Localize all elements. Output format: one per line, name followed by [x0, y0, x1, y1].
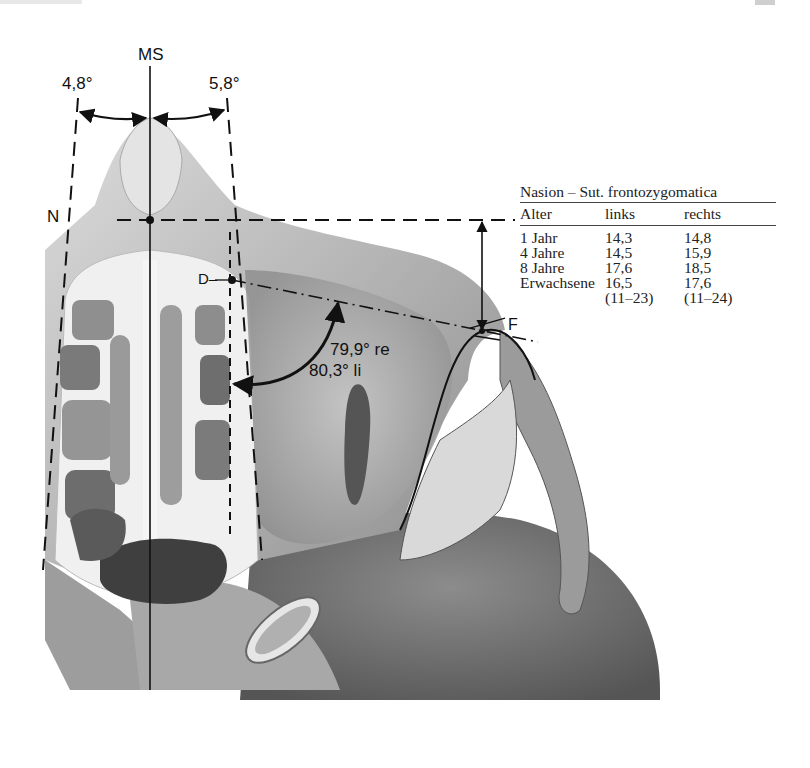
cell-age: 1 Jahr [520, 230, 605, 245]
label-angle-left-side: 80,3° li [309, 361, 361, 381]
table-row: 8 Jahre 17,6 18,5 [520, 260, 776, 275]
nasion-point [146, 216, 154, 224]
label-point-n: N [47, 207, 59, 227]
cell-right: 15,9 [684, 245, 774, 260]
cell-age: 4 Jahre [520, 245, 605, 260]
angle-arrow-left [80, 112, 146, 119]
angle-arrow-right [154, 110, 224, 119]
cell-right: 17,6 [684, 275, 774, 290]
table-title: Nasion – Sut. frontozygomatica [520, 184, 776, 203]
label-point-f: F [508, 316, 518, 334]
label-angle-left: 4,8° [62, 74, 92, 94]
label-midsagittal: MS [138, 45, 164, 65]
point-f [479, 328, 485, 334]
cell-age: 8 Jahre [520, 260, 605, 275]
cell-left: 17,6 [605, 260, 684, 275]
cell-left: 14,5 [605, 245, 684, 260]
cell-left: 16,5 [605, 275, 684, 290]
label-angle-right-side: 79,9° re [330, 340, 390, 360]
column-header-age: Alter [520, 206, 605, 221]
cell-left: 14,3 [605, 230, 684, 245]
label-angle-right: 5,8° [209, 74, 239, 94]
measurement-table: Nasion – Sut. frontozygomatica Alter lin… [520, 184, 776, 305]
cell-right: 14,8 [684, 230, 774, 245]
label-point-d: D– [198, 270, 217, 287]
table-row: Erwachsene 16,5 17,6 [520, 275, 776, 290]
table-row: (11–23) (11–24) [520, 290, 776, 305]
ethmoid-cells [55, 250, 258, 604]
skull-illustration [0, 0, 810, 768]
table-header-row: Alter links rechts [520, 203, 776, 226]
cell-right: (11–24) [684, 290, 774, 305]
table-row: 1 Jahr 14,3 14,8 [520, 230, 776, 245]
cell-age: Erwachsene [520, 275, 605, 290]
table-row: 4 Jahre 14,5 15,9 [520, 245, 776, 260]
column-header-left: links [605, 206, 684, 221]
cell-right: 18,5 [684, 260, 774, 275]
cell-left: (11–23) [605, 290, 684, 305]
column-header-right: rechts [684, 206, 774, 221]
point-d [228, 276, 236, 284]
cell-age [520, 290, 605, 305]
